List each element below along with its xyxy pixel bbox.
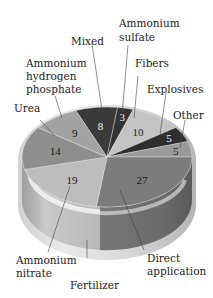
label-urea: Urea xyxy=(14,102,40,114)
label-ammonium-nitrate-line2: nitrate xyxy=(16,267,52,279)
label-explosives: Explosives xyxy=(147,83,203,95)
label-direct-application-line1: Direct xyxy=(147,252,181,264)
label-ammonium-nitrate-line1: Ammonium xyxy=(15,254,77,266)
label-mixed: Mixed xyxy=(71,35,104,47)
value-ammonium-hydrogen-phosphate: 9 xyxy=(72,127,78,139)
value-fibers: 10 xyxy=(133,126,145,138)
label-ahp-line1: Ammonium xyxy=(25,57,87,69)
value-explosives: 5 xyxy=(166,132,172,144)
label-ahp-line2: hydrogen xyxy=(26,70,77,82)
label-fibers: Fibers xyxy=(135,57,169,69)
value-direct-application: 27 xyxy=(136,174,148,186)
value-mixed: 8 xyxy=(98,120,104,132)
value-urea: 14 xyxy=(50,145,62,157)
pie-chart: 8310552719149 Mixed Ammonium sulfate Fib… xyxy=(0,0,213,298)
label-ammonium-sulfate-line2: sulfate xyxy=(119,31,155,43)
label-direct-application-line2: application xyxy=(147,265,206,277)
value-other: 5 xyxy=(173,145,179,157)
label-other: Other xyxy=(173,109,205,121)
label-ahp-line3: phosphate xyxy=(26,83,81,95)
label-ammonium-sulfate-line1: Ammonium xyxy=(118,17,180,29)
pie-slices xyxy=(22,107,192,207)
label-fertilizer: Fertilizer xyxy=(70,279,120,291)
value-ammonium-nitrate: 19 xyxy=(67,174,79,186)
